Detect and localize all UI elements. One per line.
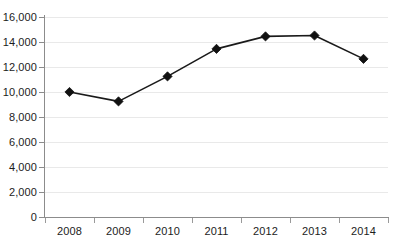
data-point-marker [212,44,221,53]
line-chart: 02,0004,0006,0008,00010,00012,00014,0001… [0,0,396,244]
data-point-marker [114,97,123,106]
data-point-marker [310,31,319,40]
data-point-marker [65,87,74,96]
data-series [0,0,396,244]
data-point-marker [359,54,368,63]
data-point-marker [261,32,270,41]
cut-off-caption [150,236,320,242]
data-point-marker [163,72,172,81]
